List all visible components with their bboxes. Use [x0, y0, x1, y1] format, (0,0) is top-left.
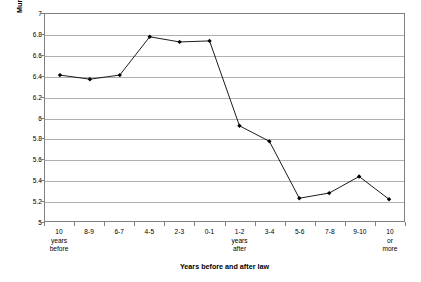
x-axis-tick-label-line: more	[368, 245, 412, 254]
plot-area	[44, 13, 405, 222]
x-axis-tick	[255, 222, 256, 226]
x-axis-tick	[134, 222, 135, 226]
x-axis-tick	[104, 222, 105, 226]
x-axis-tick-label-line: years	[37, 237, 81, 246]
y-axis-tick-label: 5.6	[20, 156, 42, 163]
x-axis-title: Years before and after law	[44, 262, 405, 271]
y-axis-tick-label: 6.4	[20, 72, 42, 79]
y-axis-tick-label: 5.2	[20, 198, 42, 205]
y-axis-tick-label: 6.6	[20, 51, 42, 58]
data-point-marker	[327, 191, 331, 195]
data-point-marker	[267, 139, 271, 143]
y-axis-tick-labels: 76.86.66.46.265.85.65.45.25	[20, 10, 42, 223]
x-axis-tick-label-line: after	[218, 245, 262, 254]
y-axis-tick-label: 6	[20, 114, 42, 121]
x-axis-tick	[345, 222, 346, 226]
y-axis-tick-label: 5	[20, 219, 42, 226]
x-axis-tick-label-line: 10	[368, 228, 412, 237]
data-point-marker	[177, 40, 181, 44]
x-axis-tick	[225, 222, 226, 226]
x-axis-ticks	[44, 222, 405, 226]
x-axis-tick-label-line: years	[218, 237, 262, 246]
y-axis-tick-label: 6.8	[20, 30, 42, 37]
data-point-marker	[58, 73, 62, 77]
x-axis-tick	[74, 222, 75, 226]
x-axis-tick	[285, 222, 286, 226]
x-axis-tick	[375, 222, 376, 226]
x-axis-tick	[315, 222, 316, 226]
x-axis-tick-label-line: or	[368, 237, 412, 246]
line-chart: Murder rate per 100,000 people 76.86.66.…	[0, 0, 421, 282]
y-axis-tick-label: 5.4	[20, 177, 42, 184]
x-axis-tick-label-line: before	[37, 245, 81, 254]
x-axis-tick	[194, 222, 195, 226]
y-axis-tick-label: 5.8	[20, 135, 42, 142]
series-polyline	[60, 37, 389, 199]
x-axis-tick	[164, 222, 165, 226]
x-axis-tick-labels: 10yearsbefore8-96-74-52-30-11-2yearsafte…	[44, 228, 405, 262]
y-axis-tick-label: 7	[20, 10, 42, 17]
y-axis-tick-label: 6.2	[20, 93, 42, 100]
data-point-marker	[207, 39, 211, 43]
x-axis-tick	[405, 222, 406, 226]
data-series-line	[45, 14, 404, 221]
x-axis-tick	[44, 222, 45, 226]
data-point-marker	[88, 77, 92, 81]
x-axis-tick-label: 10ormore	[368, 228, 412, 254]
data-point-marker	[237, 124, 241, 128]
data-point-marker	[297, 196, 301, 200]
